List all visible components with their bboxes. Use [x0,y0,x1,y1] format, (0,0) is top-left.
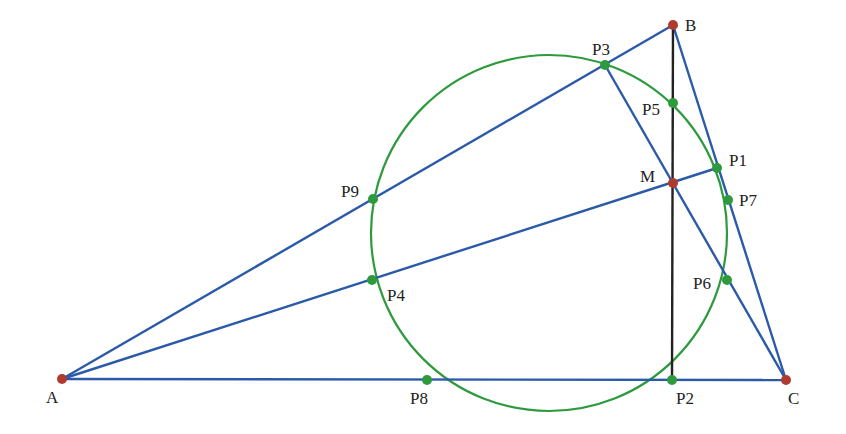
label-a: A [46,388,59,407]
segment-a-p1 [62,168,717,379]
segment-ab [62,25,673,379]
point-p3 [600,60,610,70]
altitude-b-p2 [672,25,673,380]
label-p9: P9 [341,182,359,201]
point-p5 [668,98,678,108]
label-p7: P7 [739,191,757,210]
point-p2 [667,375,677,385]
label-p6: P6 [693,274,711,293]
label-p1: P1 [729,151,747,170]
label-c: C [788,389,799,408]
label-m: M [640,167,655,186]
geometry-diagram: A B C M P1 P2 P3 P4 P5 P6 P7 P8 P9 [0,0,846,434]
label-p3: P3 [592,40,610,59]
vertex-c [781,375,791,385]
point-p6 [722,275,732,285]
point-p4 [367,275,377,285]
point-m [668,178,678,188]
point-p9 [368,194,378,204]
vertex-a [57,374,67,384]
point-p1 [712,163,722,173]
point-p8 [422,375,432,385]
label-p4: P4 [387,286,405,305]
label-p2: P2 [676,389,694,408]
label-p5: P5 [642,100,660,119]
label-b: B [685,16,696,35]
point-p7 [723,195,733,205]
label-p8: P8 [410,389,428,408]
vertex-b [668,20,678,30]
